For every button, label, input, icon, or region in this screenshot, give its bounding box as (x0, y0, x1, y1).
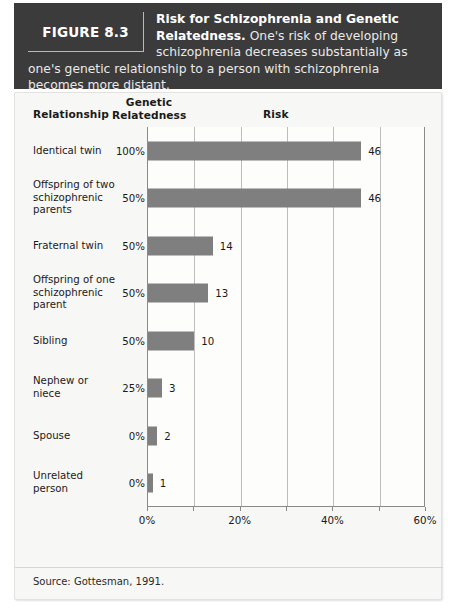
x-axis-tick-label: 40% (321, 514, 344, 526)
chart-row: Offspring of two schizophrenic parents50… (15, 175, 443, 223)
row-relationship-label: Offspring of one schizophrenic parent (33, 274, 115, 312)
column-header-genetic-line2: Relatedness (112, 109, 186, 122)
bar (148, 331, 194, 350)
source-note: Source: Gottesman, 1991. (33, 576, 164, 587)
row-genetic-relatedness-value: 25% (115, 383, 145, 394)
bar (148, 379, 162, 398)
row-relationship-label: Fraternal twin (33, 239, 115, 252)
row-genetic-relatedness-value: 100% (115, 145, 145, 156)
bar-chart: Identical twin100%46Offspring of two sch… (15, 127, 443, 567)
bar-value-label: 46 (368, 193, 381, 204)
chart-row: Offspring of one schizophrenic parent50%… (15, 270, 443, 318)
row-genetic-relatedness-value: 50% (115, 335, 145, 346)
column-header-risk: Risk (263, 108, 289, 120)
column-header-genetic-line1: Genetic (112, 96, 186, 109)
bar-value-label: 14 (220, 240, 233, 251)
row-genetic-relatedness-value: 50% (115, 193, 145, 204)
row-genetic-relatedness-value: 50% (115, 288, 145, 299)
x-axis-tick-label: 60% (414, 514, 437, 526)
row-genetic-relatedness-value: 50% (115, 240, 145, 251)
column-headings: Relationship Genetic Relatedness Risk (15, 93, 441, 127)
bar (148, 189, 361, 208)
bar-value-label: 10 (201, 335, 214, 346)
row-relationship-label: Nephew or niece (33, 376, 115, 401)
bar (148, 284, 208, 303)
row-relationship-label: Unrelated person (33, 471, 115, 496)
chart-row: Sibling50%10 (15, 317, 443, 365)
figure-header-inner: FIGURE 8.3 Risk for Schizophrenia and Ge… (14, 3, 442, 89)
figure-body-panel: Relationship Genetic Relatedness Risk Id… (14, 92, 442, 600)
x-axis-tick (286, 507, 287, 511)
bar-value-label: 2 (164, 430, 170, 441)
bar-value-label: 13 (215, 288, 228, 299)
x-axis-tick (147, 507, 148, 511)
column-header-genetic-relatedness: Genetic Relatedness (112, 96, 186, 121)
bar-value-label: 46 (368, 145, 381, 156)
figure-page: FIGURE 8.3 Risk for Schizophrenia and Ge… (0, 0, 457, 615)
x-axis-tick (379, 507, 380, 511)
bar (148, 474, 153, 493)
bar (148, 141, 361, 160)
row-relationship-label: Spouse (33, 429, 115, 442)
chart-row: Spouse0%2 (15, 412, 443, 460)
x-axis-tick-label: 0% (139, 514, 155, 526)
chart-row: Identical twin100%46 (15, 127, 443, 175)
row-genetic-relatedness-value: 0% (115, 430, 145, 441)
bar (148, 426, 157, 445)
chart-row: Nephew or niece25%3 (15, 365, 443, 413)
row-genetic-relatedness-value: 0% (115, 478, 145, 489)
figure-header: FIGURE 8.3 Risk for Schizophrenia and Ge… (14, 3, 442, 89)
x-axis-tick (425, 507, 426, 511)
row-relationship-label: Offspring of two schizophrenic parents (33, 179, 115, 217)
source-divider (15, 567, 443, 568)
chart-row: Unrelated person0%1 (15, 460, 443, 508)
row-relationship-label: Identical twin (33, 144, 115, 157)
x-axis-tick (193, 507, 194, 511)
bar-value-label: 1 (160, 478, 166, 489)
x-axis-tick-label: 20% (228, 514, 251, 526)
x-axis-tick (332, 507, 333, 511)
bar (148, 236, 213, 255)
bar-value-label: 3 (169, 383, 175, 394)
column-header-relationship: Relationship (33, 108, 109, 120)
chart-row: Fraternal twin50%14 (15, 222, 443, 270)
figure-number-box: FIGURE 8.3 (28, 12, 144, 52)
x-axis-tick (240, 507, 241, 511)
row-relationship-label: Sibling (33, 334, 115, 347)
figure-number-label: FIGURE 8.3 (42, 24, 129, 40)
